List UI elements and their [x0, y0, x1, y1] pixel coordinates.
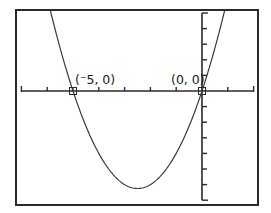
label-point-neg5-0: (⁻5, 0): [75, 72, 115, 87]
parabola-curve: [21, 0, 253, 188]
graph-frame: [16, 10, 258, 205]
label-point-0-0: (0, 0): [171, 72, 205, 87]
graph-screen: (⁻5, 0) (0, 0): [0, 0, 271, 213]
axes: [21, 13, 253, 200]
y-axis-ticks: [202, 13, 208, 200]
